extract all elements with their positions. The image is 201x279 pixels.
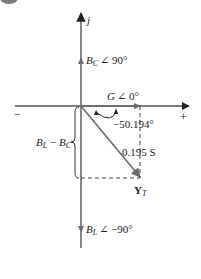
brace-label: BL − BC	[36, 136, 72, 150]
bl-label: BL∠ −90°	[86, 223, 133, 237]
positive-label: +	[180, 110, 187, 124]
yt-label: YT	[134, 184, 147, 198]
yt-angle-label: −50.194°	[113, 118, 154, 130]
bc-label: BC∠ 90°	[86, 54, 127, 68]
angle-arc-arrow-start-icon	[94, 110, 99, 115]
yt-phasor	[81, 106, 140, 177]
yt-magnitude-label: 0.195 S	[122, 146, 156, 158]
brace	[71, 107, 79, 178]
angle-arc-arrow-icon	[114, 108, 118, 114]
bc-arrowhead-icon	[78, 57, 84, 64]
phasor-diagram: j + − BC∠ 90° G∠ 0° −50.194° 0.195 S YT …	[0, 0, 201, 279]
j-label: j	[85, 14, 90, 26]
negative-label: −	[14, 107, 21, 121]
angle-arc	[97, 111, 116, 118]
g-label: G∠ 0°	[107, 90, 139, 102]
figure-badge-icon	[0, 0, 19, 4]
bl-arrowhead-icon	[78, 226, 84, 233]
